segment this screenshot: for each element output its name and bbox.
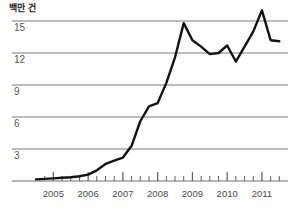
- x-axis-tick-label: 2007: [107, 188, 139, 199]
- y-axis-tick-label: 3: [14, 150, 20, 161]
- x-axis-tick-label: 2009: [176, 188, 208, 199]
- x-axis-tick-label: 2011: [246, 188, 278, 199]
- data-series-line: [36, 10, 279, 179]
- y-axis-tick-label: 9: [14, 86, 20, 97]
- x-axis-tick-label: 2008: [142, 188, 174, 199]
- x-axis-tick-label: 2006: [72, 188, 104, 199]
- data-line-group: [36, 10, 279, 179]
- y-axis-tick-label: 6: [14, 118, 20, 129]
- chart-container: 백만 건 3691215 200520062007200820092010201…: [0, 0, 296, 211]
- y-axis-tick-label: 12: [14, 54, 25, 65]
- chart-plot-area: [0, 0, 296, 211]
- x-axis-tick-label: 2010: [211, 188, 243, 199]
- x-axis-tick-label: 2005: [37, 188, 69, 199]
- y-axis-tick-label: 15: [14, 22, 25, 33]
